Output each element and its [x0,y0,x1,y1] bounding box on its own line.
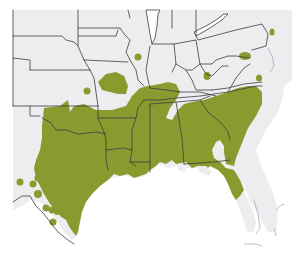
range-spot-kansas [84,88,91,95]
range-map [0,0,292,264]
range-spot-tx-7 [54,209,60,215]
range-spot-tx-5 [43,205,50,212]
range-spot-west-virginia [204,72,211,80]
range-spot-maryland [239,52,251,60]
range-spot-tx-1 [17,179,24,186]
range-spot-new-jersey [270,29,275,36]
range-spot-tx-8 [50,219,57,226]
range-spot-tx-3 [35,175,42,182]
range-spot-tx-2 [30,181,37,188]
range-main [34,82,262,236]
range-spot-tx-4 [34,190,42,198]
range-spot-illinois [135,54,142,61]
range-spot-virginia-coast [256,75,262,82]
gap-florida-panhandle [196,166,212,176]
